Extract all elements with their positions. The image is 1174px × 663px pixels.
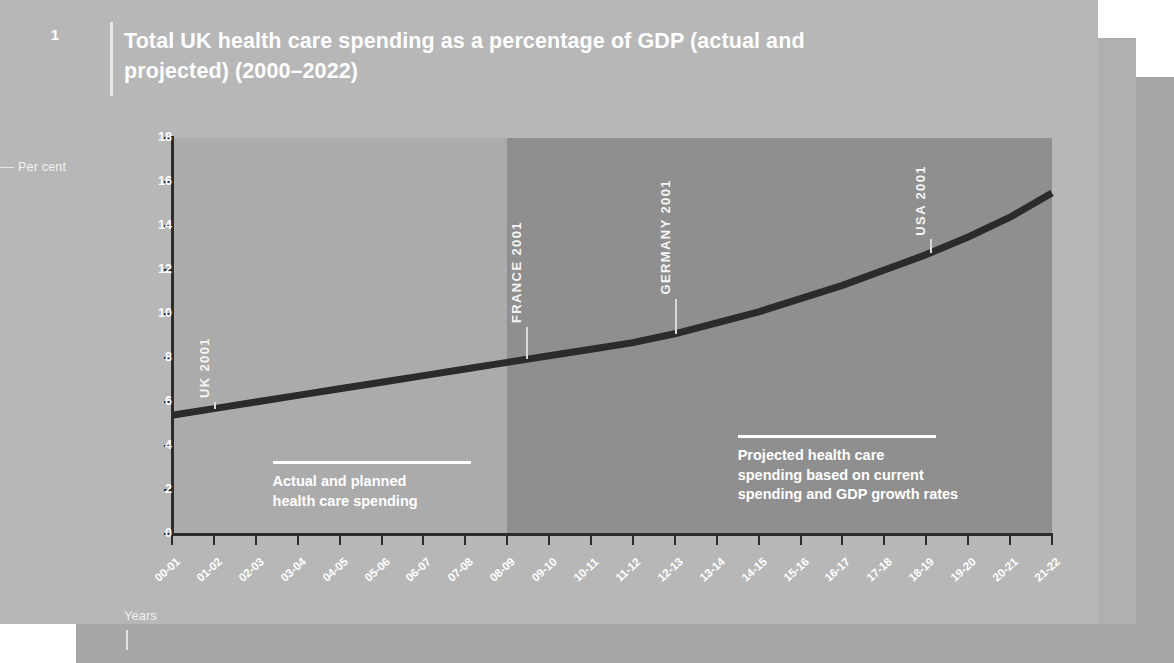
caption-projected: Projected health care spending based on … bbox=[738, 435, 958, 505]
x-tick bbox=[674, 536, 676, 545]
y-tick-label: 2 bbox=[132, 482, 172, 496]
y-tick-label: 10 bbox=[132, 306, 172, 320]
x-tick bbox=[297, 536, 299, 545]
caption-actual-text: Actual and planned health care spending bbox=[273, 472, 471, 511]
x-tick bbox=[883, 536, 885, 545]
y-tick-label: 12 bbox=[132, 262, 172, 276]
plot-area: UK 2001FRANCE 2001GERMANY 2001USA 2001 A… bbox=[172, 138, 1052, 534]
x-tick bbox=[967, 536, 969, 545]
x-tick bbox=[213, 536, 215, 545]
benchmark-stem bbox=[675, 299, 677, 334]
x-tick bbox=[381, 536, 383, 545]
x-tick bbox=[464, 536, 466, 545]
y-axis-label: Per cent bbox=[18, 160, 66, 174]
benchmark-label: GERMANY 2001 bbox=[658, 179, 673, 295]
y-tick-label: 4 bbox=[132, 438, 172, 452]
x-tick bbox=[506, 536, 508, 545]
benchmark-label: FRANCE 2001 bbox=[509, 221, 524, 323]
x-tick bbox=[255, 536, 257, 545]
x-tick bbox=[925, 536, 927, 545]
y-tick-label: 18 bbox=[132, 130, 172, 144]
y-tick-label: 0 bbox=[132, 526, 172, 540]
x-tick bbox=[339, 536, 341, 545]
caption-actual: Actual and planned health care spending bbox=[273, 461, 471, 511]
y-tick-label: 8 bbox=[132, 350, 172, 364]
x-tick bbox=[716, 536, 718, 545]
y-axis-label-dash bbox=[0, 167, 14, 168]
x-tick bbox=[758, 536, 760, 545]
y-tick-label: 6 bbox=[132, 394, 172, 408]
x-tick bbox=[841, 536, 843, 545]
benchmark-stem bbox=[930, 239, 932, 253]
benchmark-stem bbox=[214, 402, 216, 409]
x-tick bbox=[800, 536, 802, 545]
x-tick bbox=[1051, 536, 1053, 545]
figure-card: 1 Total UK health care spending as a per… bbox=[0, 0, 1174, 663]
x-axis-label-tick bbox=[126, 630, 128, 650]
x-axis-spine bbox=[171, 533, 1053, 536]
x-tick bbox=[171, 536, 173, 545]
benchmark-label: UK 2001 bbox=[197, 337, 212, 398]
title-band: 1 Total UK health care spending as a per… bbox=[0, 0, 1098, 120]
x-axis-label: Years bbox=[124, 608, 157, 623]
caption-rule bbox=[273, 461, 471, 464]
x-tick bbox=[422, 536, 424, 545]
x-tick bbox=[632, 536, 634, 545]
benchmark-label: USA 2001 bbox=[913, 165, 928, 236]
y-tick-label: 16 bbox=[132, 174, 172, 188]
title-divider bbox=[110, 22, 113, 96]
x-tick bbox=[548, 536, 550, 545]
benchmark-stem bbox=[526, 327, 528, 359]
caption-projected-text: Projected health care spending based on … bbox=[738, 446, 958, 505]
x-tick bbox=[1009, 536, 1011, 545]
caption-rule bbox=[738, 435, 936, 438]
figure-number: 1 bbox=[0, 26, 110, 43]
y-tick-label: 14 bbox=[132, 218, 172, 232]
figure-title: Total UK health care spending as a perce… bbox=[124, 26, 824, 86]
x-tick bbox=[590, 536, 592, 545]
y-axis-spine bbox=[171, 136, 174, 536]
